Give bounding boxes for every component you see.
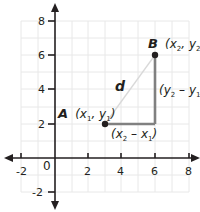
x-tick-neg2: -2: [16, 165, 27, 178]
coordinate-plane-diagram: -2 2 4 6 8 0 8 6 4 2 -2 A (x1, y1) B (x2…: [0, 0, 200, 212]
x-tick-4: 4: [117, 165, 124, 178]
point-b: [152, 52, 158, 58]
x-axis: [4, 153, 200, 162]
x-axis-left-arrow-icon: [4, 154, 13, 162]
y-tick-8: 8: [38, 15, 45, 28]
y-tick-2: 2: [38, 118, 45, 131]
y-axis-up-arrow-icon: [51, 3, 59, 12]
y-tick-4: 4: [38, 83, 45, 96]
x-tick-6: 6: [151, 165, 158, 178]
y-axis-down-arrow-icon: [51, 201, 59, 210]
y-tick-neg2: -2: [32, 186, 43, 199]
y-tick-6: 6: [38, 49, 45, 62]
x-axis-right-arrow-icon: [191, 154, 200, 162]
point-a-label: A (x1, y1): [57, 103, 115, 123]
horizontal-leg-label: (x2 – x1): [111, 127, 157, 143]
x-tick-8: 8: [185, 165, 192, 178]
point-b-label: B (x2, y2): [148, 33, 200, 53]
distance-label: d: [115, 78, 126, 94]
vertical-leg-label: (y2 – y1): [159, 83, 200, 99]
origin-label: 0: [43, 159, 51, 173]
x-tick-2: 2: [84, 165, 91, 178]
